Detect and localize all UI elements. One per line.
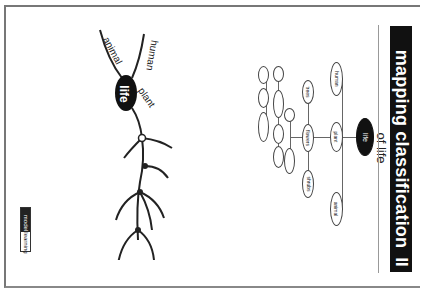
node-sub <box>284 108 295 122</box>
node-leaf <box>258 66 269 84</box>
life-tree-illustration <box>80 20 200 260</box>
connector <box>342 137 356 138</box>
node-leaf <box>273 90 284 118</box>
connector <box>290 137 302 138</box>
node-leaf <box>273 124 284 144</box>
node-trees: trees <box>302 80 314 104</box>
node-flowers: flowers <box>302 124 314 152</box>
page-title: mapping classification <box>391 50 412 248</box>
divider <box>378 25 379 273</box>
title-number: II <box>392 258 410 267</box>
root-node: life <box>356 118 374 156</box>
node-leaf <box>273 66 284 82</box>
life-label: life <box>117 85 131 102</box>
node-shrubs: shrubs <box>302 170 314 198</box>
publisher-logo: model learning <box>20 207 31 252</box>
page-subtitle: of life <box>374 132 389 163</box>
node-leaf <box>273 146 284 168</box>
node-animal: animal <box>330 192 343 226</box>
connector <box>342 80 343 210</box>
node-human: human <box>330 62 343 96</box>
node-sub <box>284 148 295 174</box>
node-leaf <box>258 88 269 108</box>
node-leaf <box>258 112 269 142</box>
node-plant: plant <box>330 122 343 152</box>
